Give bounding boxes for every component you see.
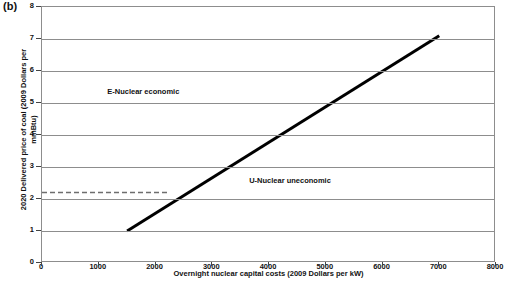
x-tick-mark xyxy=(382,262,383,266)
y-tick-mark xyxy=(36,38,41,39)
series-line xyxy=(127,36,439,231)
x-tick-mark xyxy=(495,262,496,266)
plot-area: E-Nuclear economicU-Nuclear uneconomic xyxy=(41,6,495,262)
gridline-y xyxy=(42,135,494,136)
x-tick-mark xyxy=(98,262,99,266)
y-tick-mark xyxy=(36,198,41,199)
y-tick-label: 3 xyxy=(12,162,34,170)
x-tick-mark xyxy=(41,262,42,266)
x-tick-mark xyxy=(325,262,326,266)
y-tick-label: 5 xyxy=(12,98,34,106)
figure: (b) 2020 Delivered price of coal (2009 D… xyxy=(0,0,511,283)
y-tick-mark xyxy=(36,102,41,103)
gridline-y xyxy=(42,199,494,200)
gridline-y xyxy=(42,167,494,168)
gridline-y xyxy=(42,39,494,40)
y-tick-label: 6 xyxy=(12,66,34,74)
y-tick-label: 1 xyxy=(12,226,34,234)
y-tick-label: 7 xyxy=(12,34,34,42)
gridline-y xyxy=(42,71,494,72)
y-tick-mark xyxy=(36,166,41,167)
y-tick-label: 8 xyxy=(12,2,34,10)
x-axis-title: Overnight nuclear capital costs (2009 Do… xyxy=(41,269,496,278)
chart-annotation: U-Nuclear uneconomic xyxy=(249,176,331,185)
y-tick-label: 2 xyxy=(12,194,34,202)
y-tick-mark xyxy=(36,6,41,7)
y-tick-label: 4 xyxy=(12,130,34,138)
x-tick-mark xyxy=(438,262,439,266)
chart-annotation: E-Nuclear economic xyxy=(107,87,179,96)
x-tick-mark xyxy=(155,262,156,266)
x-tick-mark xyxy=(211,262,212,266)
y-tick-mark xyxy=(36,134,41,135)
y-tick-mark xyxy=(36,230,41,231)
y-tick-mark xyxy=(36,70,41,71)
x-tick-mark xyxy=(268,262,269,266)
gridline-y xyxy=(42,231,494,232)
gridline-y xyxy=(42,103,494,104)
